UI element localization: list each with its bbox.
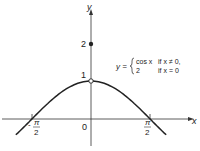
svg-text:π: π bbox=[34, 118, 40, 127]
case-2-cond: if x = 0 bbox=[158, 67, 179, 74]
x-tick-label-pi-half: π 2 bbox=[144, 118, 151, 137]
definition-lhs: y = bbox=[115, 62, 127, 71]
filled-point-0-2 bbox=[89, 42, 93, 46]
piecewise-definition: y = cos x if x ≠ 0, 2 if x = 0 bbox=[115, 58, 181, 74]
case-1-cond: if x ≠ 0, bbox=[158, 58, 181, 65]
y-tick-1: 1 bbox=[81, 70, 86, 80]
y-tick-2: 2 bbox=[81, 39, 86, 49]
case-2-expr: 2 bbox=[136, 67, 140, 74]
svg-text:2: 2 bbox=[145, 128, 150, 137]
open-point-0-1 bbox=[89, 79, 93, 83]
y-axis-label: y bbox=[86, 2, 92, 12]
brace-icon bbox=[130, 58, 134, 74]
origin-label: 0 bbox=[82, 122, 87, 132]
function-graph: x y 0 1 2 - π 2 π 2 y = cos x if x ≠ 0, … bbox=[0, 0, 200, 151]
case-1-expr: cos x bbox=[136, 58, 153, 65]
x-axis-label: x bbox=[191, 116, 197, 126]
svg-text:2: 2 bbox=[34, 128, 39, 137]
